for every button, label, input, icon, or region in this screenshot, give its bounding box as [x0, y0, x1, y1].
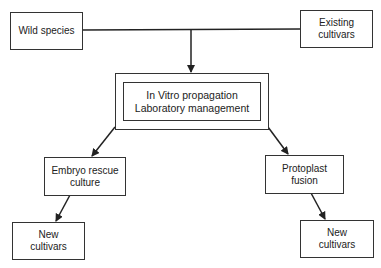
node-label: Protoplast	[282, 163, 327, 175]
node-label: Laboratory management	[135, 102, 249, 115]
node-label: cultivars	[319, 239, 356, 251]
node-in-vitro-outer: In Vitro propagation Laboratory manageme…	[115, 73, 269, 130]
node-in-vitro-inner: In Vitro propagation Laboratory manageme…	[123, 82, 261, 121]
node-existing-cultivars: Existing cultivars	[300, 10, 373, 48]
node-label: Embryo rescue	[51, 165, 118, 177]
node-label: cultivars	[318, 29, 355, 41]
node-new-cultivars-left: New cultivars	[12, 222, 85, 260]
node-label: New	[38, 229, 58, 241]
node-new-cultivars-right: New cultivars	[300, 220, 374, 258]
node-label: New	[327, 227, 347, 239]
node-label: cultivars	[30, 241, 67, 253]
node-label: Wild species	[18, 25, 74, 37]
node-wild-species: Wild species	[10, 12, 83, 50]
node-protoplast-fusion: Protoplast fusion	[265, 155, 344, 194]
node-label: fusion	[291, 175, 318, 187]
node-label: In Vitro propagation	[146, 89, 237, 102]
node-embryo-rescue: Embryo rescue culture	[44, 157, 126, 196]
node-label: Existing	[319, 17, 354, 29]
node-label: culture	[70, 177, 100, 189]
